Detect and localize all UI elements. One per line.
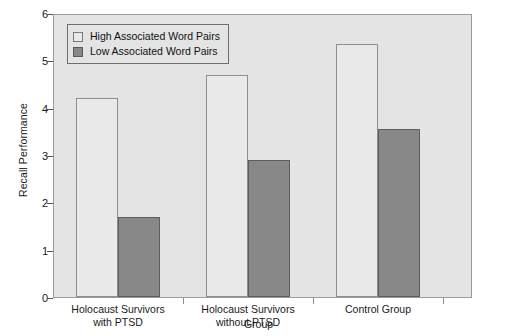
y-tick-label: 2 bbox=[26, 198, 48, 209]
x-category-label-2-line1: Holocaust Survivors bbox=[201, 303, 294, 315]
x-category-label-1-line1: Holocaust Survivors bbox=[71, 303, 164, 315]
plot-area: High Associated Word Pairs Low Associate… bbox=[53, 14, 472, 298]
y-tick-label: 5 bbox=[26, 56, 48, 67]
x-category-label-3-line1: Control Group bbox=[345, 303, 411, 315]
bar-low-group-2 bbox=[248, 160, 290, 297]
y-tick-label: 0 bbox=[26, 293, 48, 304]
x-category-label-3: Control Group bbox=[345, 303, 411, 316]
bar-low-group-1 bbox=[118, 217, 160, 297]
y-axis-tick-labels: 6 5 4 3 2 1 0 bbox=[22, 0, 48, 336]
x-axis-title: Group bbox=[0, 318, 509, 330]
x-tick-mark bbox=[183, 298, 184, 304]
y-tick-label: 4 bbox=[26, 103, 48, 114]
y-tick-label: 1 bbox=[26, 245, 48, 256]
bar-high-group-2 bbox=[206, 75, 248, 297]
legend-swatch-high-icon bbox=[73, 32, 83, 42]
y-tick-label: 3 bbox=[26, 151, 48, 162]
bar-high-group-3 bbox=[336, 44, 378, 297]
plot-inner: High Associated Word Pairs Low Associate… bbox=[54, 15, 471, 297]
legend-label-high: High Associated Word Pairs bbox=[90, 30, 220, 43]
legend-item-low: Low Associated Word Pairs bbox=[73, 44, 220, 59]
y-tick-mark bbox=[47, 298, 53, 299]
legend-label-low: Low Associated Word Pairs bbox=[90, 45, 218, 58]
bar-chart: Recall Performance 6 5 4 3 2 1 0 bbox=[0, 0, 509, 336]
legend: High Associated Word Pairs Low Associate… bbox=[67, 24, 229, 64]
bar-low-group-3 bbox=[378, 129, 420, 297]
x-axis-title-text: Group bbox=[244, 318, 273, 330]
x-tick-mark bbox=[313, 298, 314, 304]
legend-swatch-low-icon bbox=[73, 47, 83, 57]
legend-item-high: High Associated Word Pairs bbox=[73, 29, 220, 44]
bar-high-group-1 bbox=[76, 98, 118, 297]
y-tick-label: 6 bbox=[26, 9, 48, 20]
x-tick-mark bbox=[443, 298, 444, 304]
